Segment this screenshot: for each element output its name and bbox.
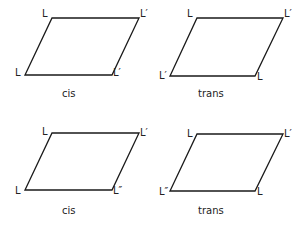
isomer-diagram: L L′ L′ L cis L L′ L L′ trans L L′ L″ L … bbox=[0, 0, 306, 225]
vertex-label-top-right: L′ bbox=[140, 8, 149, 19]
vertex-label-top-left: L bbox=[42, 126, 48, 137]
diagram-caption: trans bbox=[198, 88, 224, 99]
diagram-caption: cis bbox=[62, 205, 76, 216]
parallelogram-cis-2: L L′ L″ L cis bbox=[15, 126, 149, 216]
vertex-label-top-left: L bbox=[187, 8, 193, 19]
vertex-label-bottom-right: L bbox=[257, 71, 263, 82]
vertex-label-bottom-right: L′ bbox=[113, 67, 122, 78]
parallelogram-shape bbox=[25, 18, 139, 75]
parallelogram-trans-1: L L′ L L′ trans bbox=[159, 8, 293, 99]
parallelogram-shape bbox=[170, 18, 283, 76]
parallelogram-shape bbox=[170, 134, 283, 191]
vertex-label-bottom-right: L″ bbox=[113, 185, 123, 196]
vertex-label-bottom-right: L bbox=[257, 186, 263, 197]
vertex-label-bottom-left: L bbox=[15, 185, 21, 196]
diagram-caption: trans bbox=[198, 205, 224, 216]
parallelogram-trans-2: L L′ L L″ trans bbox=[159, 128, 293, 216]
vertex-label-top-right: L′ bbox=[284, 8, 293, 19]
parallelogram-shape bbox=[25, 133, 139, 190]
vertex-label-bottom-left: L′ bbox=[159, 70, 168, 81]
vertex-label-top-left: L bbox=[187, 128, 193, 139]
vertex-label-top-left: L bbox=[42, 8, 48, 19]
parallelogram-cis-1: L L′ L′ L cis bbox=[15, 8, 149, 99]
vertex-label-bottom-left: L″ bbox=[159, 186, 169, 197]
diagram-caption: cis bbox=[62, 88, 76, 99]
vertex-label-top-right: L′ bbox=[140, 127, 149, 138]
vertex-label-bottom-left: L bbox=[15, 67, 21, 78]
vertex-label-top-right: L′ bbox=[284, 128, 293, 139]
